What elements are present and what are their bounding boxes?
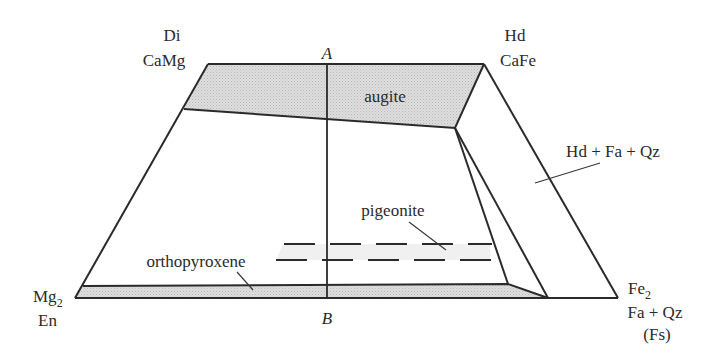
orthopyroxene-label: orthopyroxene: [146, 252, 245, 271]
pigeonite-band: [276, 244, 490, 260]
augite-label: augite: [364, 87, 406, 106]
hd-fa-qz-leader: [535, 163, 600, 183]
fe-text: Fe: [628, 279, 645, 298]
fe2-label: Fe2: [628, 279, 651, 302]
hd-fs-edge: [484, 64, 618, 298]
fe-subscript: 2: [645, 288, 651, 302]
hd-label: Hd: [505, 26, 526, 45]
en-label: En: [38, 311, 57, 330]
section-a-label: A: [321, 44, 333, 63]
fs-label: (Fs): [643, 325, 670, 344]
mg2-label: Mg2: [33, 287, 63, 310]
mg-subscript: 2: [57, 296, 63, 310]
augite-field: [184, 64, 484, 128]
pigeonite-label: pigeonite: [361, 201, 424, 220]
diagram-canvas: Di CaMg Hd CaFe A B augite Hd + Fa + Qz …: [0, 0, 701, 357]
cafe-label: CaFe: [500, 51, 536, 70]
section-b-label: B: [322, 309, 333, 328]
three-phase-line: [455, 128, 548, 298]
pyroxene-quadrilateral-diagram: Di CaMg Hd CaFe A B augite Hd + Fa + Qz …: [0, 0, 701, 357]
camg-label: CaMg: [143, 51, 186, 70]
hd-fa-qz-label: Hd + Fa + Qz: [566, 142, 660, 161]
fa-qz-label: Fa + Qz: [628, 303, 683, 322]
di-label: Di: [164, 26, 181, 45]
mg-text: Mg: [33, 287, 57, 306]
